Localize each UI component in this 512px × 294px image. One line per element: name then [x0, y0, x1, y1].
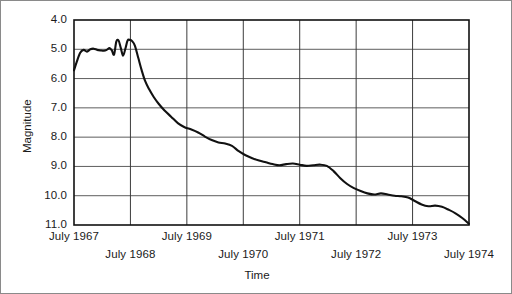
y-tick-label: 4.0: [51, 13, 67, 25]
chart-figure: 4.05.06.07.08.09.010.011.0 July 1967July…: [0, 0, 512, 294]
y-tick-label: 8.0: [51, 130, 67, 142]
x-tick-label: July 1972: [316, 248, 396, 260]
y-tick-label: 7.0: [51, 101, 67, 113]
x-tick-label: July 1974: [429, 248, 509, 260]
y-tick-label: 11.0: [45, 218, 67, 230]
plot-frame: [74, 20, 469, 225]
gridlines: [74, 20, 469, 225]
y-tick-label: 10.0: [44, 189, 67, 201]
x-tick-label: July 1971: [260, 230, 340, 242]
x-tick-label: July 1969: [147, 230, 227, 242]
y-tick-label: 6.0: [51, 72, 67, 84]
x-axis-title: Time: [1, 269, 512, 281]
x-tick-label: July 1970: [203, 248, 283, 260]
x-tick-label: July 1967: [34, 230, 114, 242]
x-tick-label: July 1973: [373, 230, 453, 242]
y-tick-label: 9.0: [51, 159, 67, 171]
y-tick-label: 5.0: [51, 42, 67, 54]
x-tick-label: July 1968: [90, 248, 170, 260]
y-axis-title: Magnitude: [21, 99, 33, 153]
